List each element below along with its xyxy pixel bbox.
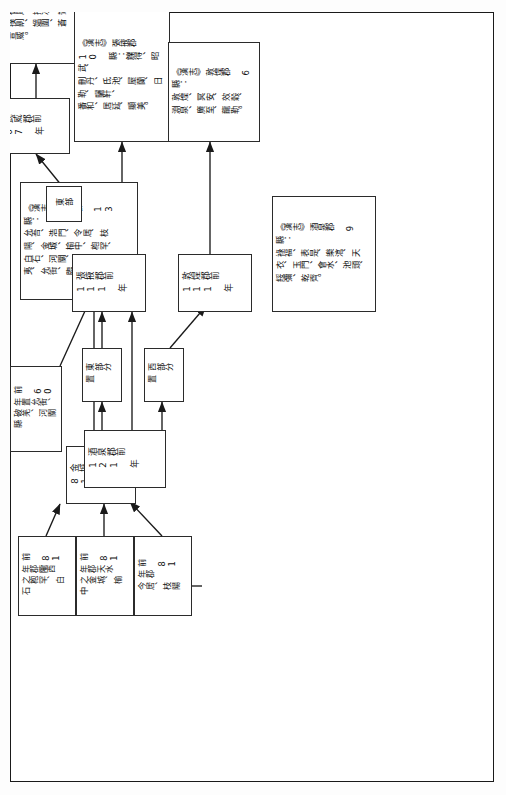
node-zhangye-commandery[interactable]: 張掖郡前 111 年: [72, 254, 146, 312]
node-jiuquan-commandery[interactable]: 酒泉郡前 121 年: [84, 430, 166, 488]
label-east-split[interactable]: 東部分置: [82, 348, 122, 402]
node-source-jun[interactable]: 前 81 年郡 今居、枝陽: [134, 536, 192, 616]
edge-jun-to-jincheng: [130, 502, 162, 536]
node-dunhuang-commandery[interactable]: 敦煌郡前 111 年: [178, 254, 252, 312]
node-source-tianshui[interactable]: 前 81 年郡天水 之金城、榆中: [76, 536, 134, 616]
page: 前 81 年郡隴西 之枹罕、白石 前 81 年郡天水 之金城、榆中 前 81 年…: [0, 0, 506, 795]
edge-west-split-to-dunhuang: [170, 306, 206, 348]
node-wuwei-commandery[interactable]: 武威郡前 67 年: [10, 98, 70, 154]
flowchart-canvas: 前 81 年郡隴西 之枹罕、白石 前 81 年郡天水 之金城、榆中 前 81 年…: [10, 12, 494, 782]
node-source-yunjie-counties[interactable]: 前 60 年置允街、 破羌、河關縣: [10, 366, 62, 452]
edge-longxi-to-jincheng: [46, 504, 60, 536]
diagram-viewport: 前 81 年郡隴西 之枹罕、白石 前 81 年郡天水 之金城、榆中 前 81 年…: [10, 12, 494, 782]
node-source-longxi[interactable]: 前 81 年郡隴西 之枹罕、白石: [18, 536, 76, 616]
node-list-dunhuang[interactable]: 《漢志》敦煌郡 6 縣： 敦煌、冥安、效穀、 淵泉、廣至、龍勒。: [168, 42, 260, 142]
label-west-split[interactable]: 西部分置: [144, 348, 184, 402]
label-east[interactable]: 東部: [46, 186, 82, 222]
node-list-zhangye[interactable]: 《漢志》張掖郡 10 縣：觻得、昭武、 刪丹、氐池、屋蘭、日勒、驪靬、 番和、居…: [74, 12, 170, 142]
node-list-jiuquan[interactable]: 《漢志》酒泉郡 9 縣： 祿福、表是、樂涫、天 衣、玉門、會水、池頭、 綏彌、乾…: [272, 196, 376, 312]
